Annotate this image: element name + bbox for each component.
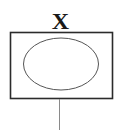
inner-ellipse — [24, 38, 99, 90]
diagram-canvas — [0, 0, 121, 130]
outer-box — [11, 33, 113, 99]
